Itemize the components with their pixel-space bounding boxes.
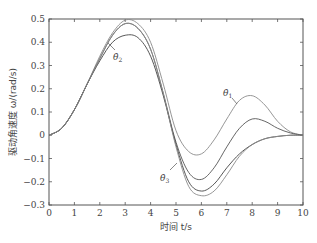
x-tick-label: 9 bbox=[275, 208, 281, 218]
x-tick-label: 2 bbox=[97, 208, 103, 218]
annotation-theta3-label: θ̇3 bbox=[160, 173, 169, 184]
tick-labels: 012345678910−0.3−0.2−0.100.10.20.30.40.5 bbox=[23, 14, 309, 218]
annotation-theta2-label: θ̇2 bbox=[113, 52, 122, 63]
x-tick-label: 8 bbox=[249, 208, 255, 218]
x-tick-label: 1 bbox=[72, 208, 78, 218]
annotation-theta1-label: θ̇1 bbox=[223, 88, 232, 99]
y-tick-label: −0.3 bbox=[23, 200, 45, 210]
y-tick-label: 0 bbox=[39, 130, 45, 140]
line-chart: 012345678910−0.3−0.2−0.100.10.20.30.40.5… bbox=[0, 0, 317, 243]
x-tick-label: 10 bbox=[297, 208, 309, 218]
y-tick-label: −0.2 bbox=[23, 177, 45, 187]
annotation-theta1: θ̇1 bbox=[223, 88, 237, 104]
x-tick-label: 0 bbox=[46, 208, 52, 218]
series-line-3 bbox=[49, 35, 303, 191]
data-series bbox=[49, 20, 303, 196]
plot-area bbox=[49, 19, 303, 205]
annotation-theta3: θ̇3 bbox=[160, 163, 177, 184]
series-line-2 bbox=[49, 23, 303, 179]
y-tick-label: 0.4 bbox=[31, 37, 46, 47]
annotation-theta2: θ̇2 bbox=[108, 43, 122, 63]
plot-frame bbox=[49, 19, 303, 205]
x-tick-label: 7 bbox=[224, 208, 230, 218]
y-tick-label: 0.3 bbox=[31, 61, 46, 71]
x-tick-label: 5 bbox=[173, 208, 179, 218]
x-axis-title: 时间 t/s bbox=[160, 221, 192, 232]
y-tick-label: 0.5 bbox=[31, 14, 46, 24]
x-tick-label: 3 bbox=[122, 208, 128, 218]
y-tick-label: 0.1 bbox=[31, 107, 45, 117]
x-tick-label: 6 bbox=[199, 208, 205, 218]
series-line-4 bbox=[49, 23, 303, 196]
y-tick-label: 0.2 bbox=[31, 84, 45, 94]
x-tick-label: 4 bbox=[148, 208, 154, 218]
y-axis-title: 驱动角速度 ω/(rad/s) bbox=[7, 68, 18, 156]
series-line-1 bbox=[49, 20, 303, 155]
y-tick-label: −0.1 bbox=[23, 154, 45, 164]
axis-ticks bbox=[49, 19, 303, 205]
